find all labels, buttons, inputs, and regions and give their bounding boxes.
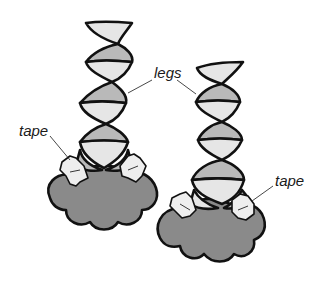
tape-label-left: tape: [19, 122, 48, 139]
legs-leader-left: [128, 80, 152, 93]
legs-label: legs: [154, 64, 182, 81]
right-figure: [158, 62, 265, 262]
left-figure: [48, 22, 157, 230]
right-leg: [190, 62, 250, 209]
tape-label-right: tape: [275, 172, 304, 189]
tape-leader-left: [50, 136, 70, 160]
legs-leader-right: [177, 80, 196, 94]
left-leg: [76, 22, 132, 171]
diagram-canvas: legs tape tape: [0, 0, 325, 283]
right-tape-2: [232, 194, 254, 220]
tape-leader-right: [252, 186, 273, 201]
